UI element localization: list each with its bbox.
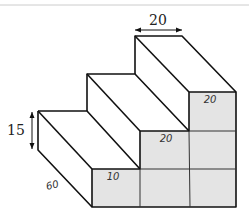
step-height-label: 15 bbox=[7, 122, 25, 138]
top-step-label: 20 bbox=[204, 94, 217, 105]
depth-label: 60 bbox=[45, 178, 60, 192]
width-dimension: 20 bbox=[135, 12, 182, 33]
top-step-front-face bbox=[189, 92, 236, 207]
staircase-diagram: 20 15 60 10 20 20 bbox=[0, 0, 249, 218]
step-width-label: 20 bbox=[149, 12, 167, 28]
bottom-step-label: 10 bbox=[107, 171, 120, 182]
middle-step-label: 20 bbox=[160, 133, 173, 144]
height-dimension: 15 bbox=[7, 112, 34, 149]
